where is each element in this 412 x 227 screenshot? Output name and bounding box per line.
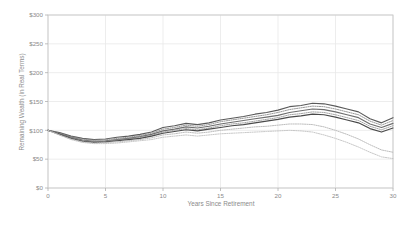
- x-tick-label: 30: [390, 192, 397, 199]
- x-axis-ticks: 051015202530: [46, 188, 397, 199]
- line-chart-svg: $0$50$100$150$200$250$300 051015202530 R…: [0, 0, 412, 227]
- y-axis-ticks: $0$50$100$150$200$250$300: [29, 11, 48, 191]
- y-tick-label: $150: [29, 98, 43, 105]
- y-tick-label: $250: [29, 40, 43, 47]
- chart-figure: $0$50$100$150$200$250$300 051015202530 R…: [0, 0, 412, 227]
- y-axis-title: Remaining Wealth (in Real Terms): [18, 53, 26, 150]
- x-tick-label: 10: [160, 192, 167, 199]
- y-tick-label: $50: [33, 155, 44, 162]
- y-tick-label: $0: [36, 184, 43, 191]
- x-tick-label: 25: [332, 192, 339, 199]
- x-tick-label: 15: [217, 192, 224, 199]
- x-tick-label: 20: [275, 192, 282, 199]
- y-tick-label: $300: [29, 11, 43, 18]
- grid-lines: [48, 15, 393, 188]
- y-tick-label: $200: [29, 69, 43, 76]
- x-tick-label: 5: [104, 192, 108, 199]
- x-tick-label: 0: [46, 192, 50, 199]
- y-tick-label: $100: [29, 127, 43, 134]
- x-axis-title: Years Since Retirement: [188, 200, 255, 207]
